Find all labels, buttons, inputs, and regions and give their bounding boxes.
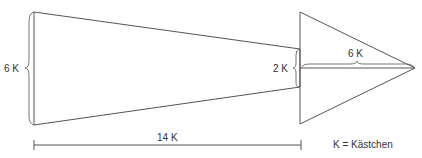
arrow-shaft: [34, 12, 300, 125]
shaft-end-brace: [293, 49, 299, 87]
shaft-height-label: 6 K: [4, 63, 19, 74]
arrow-diagram: 6 K 2 K 6 K 14 K K = Kästchen: [0, 0, 422, 158]
shaft-height-brace: [25, 12, 34, 125]
head-length-brace: [302, 61, 414, 67]
shaft-end-height-label: 2 K: [273, 63, 288, 74]
legend-text: K = Kästchen: [333, 139, 393, 150]
shaft-length-label: 14 K: [157, 132, 178, 143]
head-length-label: 6 K: [348, 48, 363, 59]
